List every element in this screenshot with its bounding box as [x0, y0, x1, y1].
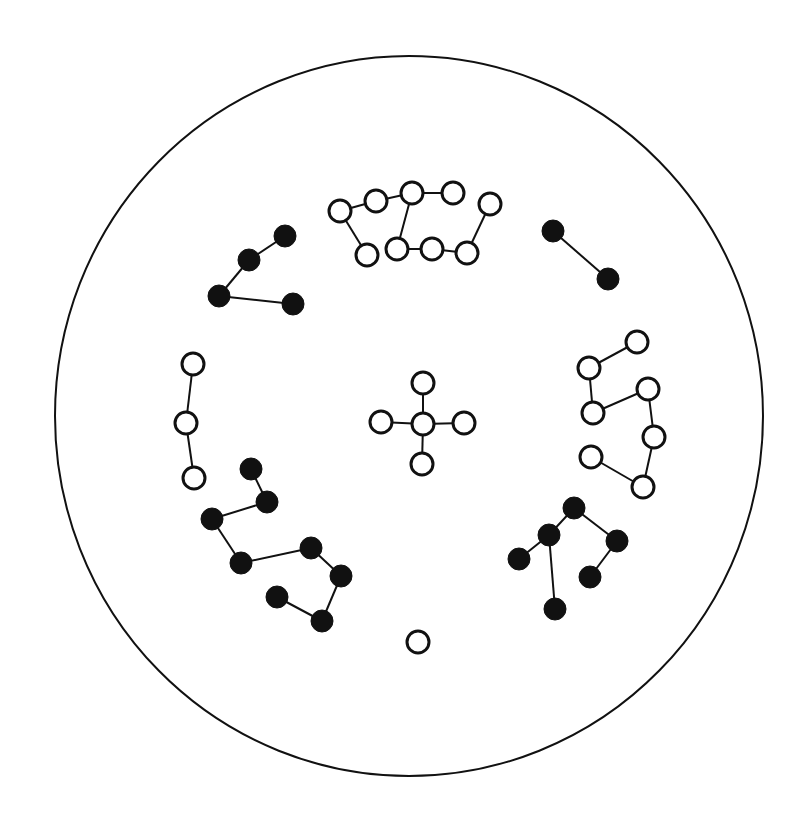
boundary-circle — [55, 56, 763, 776]
hollow-node — [411, 453, 433, 475]
hollow-node — [643, 426, 665, 448]
top-white-chain — [329, 182, 501, 266]
filled-node — [579, 566, 601, 588]
hollow-node — [412, 372, 434, 394]
hollow-node — [175, 412, 197, 434]
center-white-cross — [370, 372, 475, 475]
filled-node — [208, 285, 230, 307]
filled-node — [238, 249, 260, 271]
hollow-node — [365, 190, 387, 212]
hollow-node — [421, 238, 443, 260]
filled-node — [597, 268, 619, 290]
filled-node — [201, 508, 223, 530]
filled-node — [230, 552, 252, 574]
hollow-node — [407, 631, 429, 653]
hollow-node — [442, 182, 464, 204]
filled-node — [311, 610, 333, 632]
hollow-node — [479, 193, 501, 215]
hollow-node — [329, 200, 351, 222]
filled-node — [563, 497, 585, 519]
hollow-node — [578, 357, 600, 379]
left-white-chain — [175, 353, 205, 489]
hollow-node — [183, 467, 205, 489]
filled-node — [266, 586, 288, 608]
hollow-node — [582, 402, 604, 424]
filled-node — [300, 537, 322, 559]
hollow-node — [401, 182, 423, 204]
lower-right-black-tree-edges — [519, 508, 617, 609]
filled-node — [542, 220, 564, 242]
nodes-layer — [175, 182, 665, 653]
hollow-node — [637, 378, 659, 400]
upper-left-black-chain — [208, 225, 304, 315]
hollow-node — [182, 353, 204, 375]
lower-right-black-tree — [508, 497, 628, 620]
hollow-node — [632, 476, 654, 498]
hollow-node — [356, 244, 378, 266]
filled-node — [538, 524, 560, 546]
hollow-node — [453, 412, 475, 434]
filled-node — [274, 225, 296, 247]
hollow-node — [626, 331, 648, 353]
hollow-node — [456, 242, 478, 264]
filled-node — [544, 598, 566, 620]
filled-node — [606, 530, 628, 552]
hollow-node — [386, 238, 408, 260]
filled-node — [240, 458, 262, 480]
filled-node — [330, 565, 352, 587]
hollow-node — [580, 446, 602, 468]
diagram-canvas — [0, 0, 809, 827]
hollow-node — [370, 411, 392, 433]
hollow-node — [412, 413, 434, 435]
filled-node — [256, 491, 278, 513]
filled-node — [282, 293, 304, 315]
filled-node — [508, 548, 530, 570]
bottom-white-single — [407, 631, 429, 653]
